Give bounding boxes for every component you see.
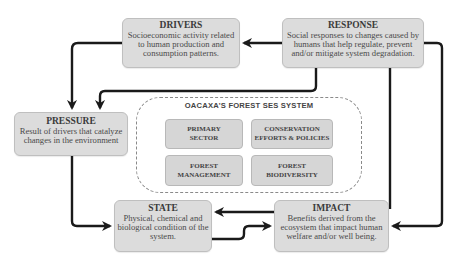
component-forest-biodiversity: FOREST BIODIVERSITY xyxy=(251,155,333,186)
response-description: Social responses to changes caused by hu… xyxy=(283,31,423,58)
impact-node: IMPACT Benefits derived from the ecosyst… xyxy=(274,200,389,252)
response-node: RESPONSE Social responses to changes cau… xyxy=(282,18,424,68)
arrow-response-to-impact-outer xyxy=(393,43,442,226)
state-node: STATE Physical, chemical and biological … xyxy=(114,200,212,252)
impact-description: Benefits derived from the ecosystem that… xyxy=(275,214,388,241)
pressure-description: Result of drivers that catalyze changes … xyxy=(15,127,127,145)
pressure-node: PRESSURE Result of drivers that catalyze… xyxy=(14,112,128,156)
component-primary-sector: PRIMARY SECTOR xyxy=(165,119,243,149)
drivers-description: Socioeconomic activity related to human … xyxy=(123,31,239,58)
arrow-state-to-impact xyxy=(212,226,270,239)
component-conservation-efforts-policies: CONSERVATION EFFORTS & POLICIES xyxy=(251,119,333,149)
state-description: Physical, chemical and biological condit… xyxy=(115,214,211,241)
arrow-drivers-to-pressure xyxy=(72,43,122,108)
forest-ses-system-title: OACAXA'S FOREST SES SYSTEM xyxy=(136,101,362,110)
component-forest-management: FOREST MANAGEMENT xyxy=(165,155,243,186)
drivers-node: DRIVERS Socioeconomic activity related t… xyxy=(122,18,240,68)
arrow-pressure-to-state xyxy=(72,156,110,226)
